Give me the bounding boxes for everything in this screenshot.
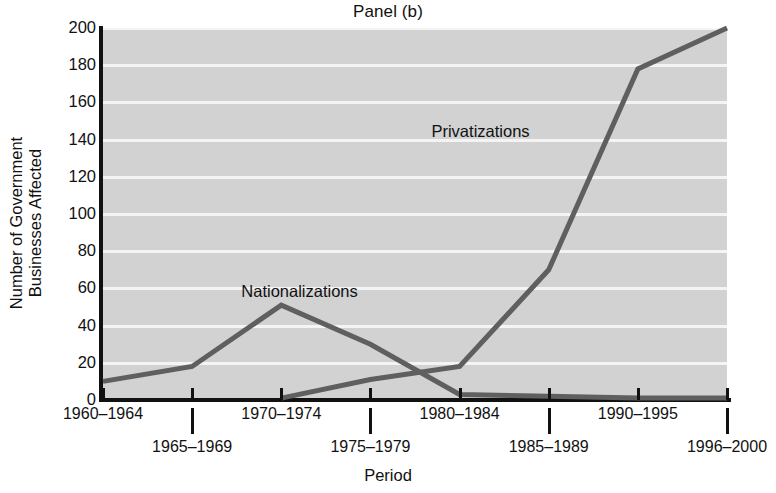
- x-tick-label: 1960–1964: [63, 405, 143, 423]
- x-axis-tick: [280, 388, 283, 400]
- x-axis-tick: [191, 388, 194, 400]
- x-tick-label: 1965–1969: [152, 438, 232, 456]
- y-tick-label: 20: [36, 353, 96, 372]
- x-tick-stem: [548, 408, 551, 434]
- y-tick-label: 160: [36, 92, 96, 111]
- y-axis-line: [99, 26, 103, 402]
- gridline: [103, 287, 727, 290]
- chart-figure: Panel (b) Number of Government Businesse…: [0, 0, 776, 493]
- plot-area: [103, 28, 727, 400]
- x-tick-label: 1975–1979: [330, 438, 410, 456]
- gridline: [103, 362, 727, 365]
- x-tick-label: 1990–1995: [598, 405, 678, 423]
- x-tick-label: 1985–1989: [509, 438, 589, 456]
- x-axis-tick: [726, 388, 729, 400]
- y-tick-label: 120: [36, 167, 96, 186]
- x-tick-label: 1980–1984: [420, 405, 500, 423]
- y-tick-label: 180: [36, 55, 96, 74]
- y-tick-label: 80: [36, 241, 96, 260]
- y-tick-label: 40: [36, 316, 96, 335]
- x-tick-label: 1970–1974: [241, 405, 321, 423]
- gridline: [103, 213, 727, 216]
- x-axis-tick: [637, 388, 640, 400]
- gridline: [103, 101, 727, 104]
- x-axis-title: Period: [0, 466, 776, 485]
- x-axis-tick: [102, 388, 105, 400]
- gridline: [103, 250, 727, 253]
- x-axis-tick: [459, 388, 462, 400]
- gridline: [103, 28, 727, 30]
- x-axis-tick: [548, 388, 551, 400]
- y-tick-label: 140: [36, 130, 96, 149]
- gridline: [103, 139, 727, 142]
- y-tick-label: 100: [36, 204, 96, 223]
- x-tick-stem: [369, 408, 372, 434]
- gridline: [103, 176, 727, 179]
- x-tick-label: 1996–2000: [687, 438, 767, 456]
- gridline: [103, 325, 727, 328]
- series-label: Privatizations: [431, 122, 529, 141]
- x-tick-stem: [191, 408, 194, 434]
- y-tick-label: 200: [36, 18, 96, 37]
- chart-title: Panel (b): [0, 2, 776, 22]
- series-label: Nationalizations: [241, 282, 357, 301]
- y-tick-label: 60: [36, 278, 96, 297]
- x-axis-tick: [369, 388, 372, 400]
- x-tick-stem: [726, 408, 729, 434]
- gridline: [103, 64, 727, 67]
